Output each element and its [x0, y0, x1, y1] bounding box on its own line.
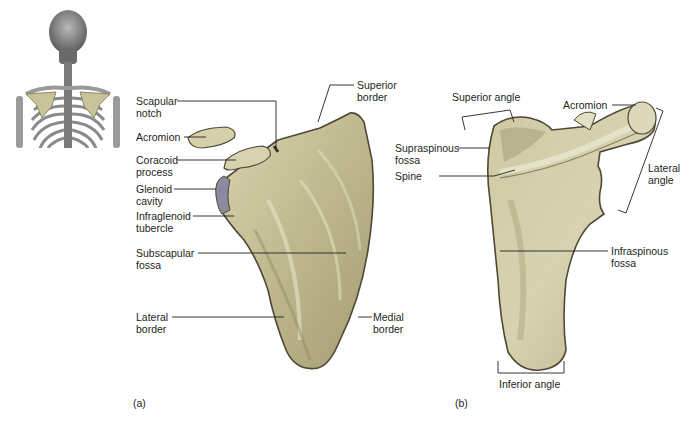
label-subscapular-fossa: Subscapular fossa	[136, 247, 194, 271]
label-lateral-angle: Lateral angle	[648, 162, 680, 186]
label-infraglenoid-tubercle: Infraglenoid tubercle	[136, 210, 191, 234]
label-line: fossa	[395, 154, 459, 166]
label-line: fossa	[136, 259, 194, 271]
label-line: Glenoid	[136, 183, 172, 195]
caption-b: (b)	[455, 397, 468, 409]
label-line: fossa	[611, 257, 668, 269]
bone-illustrations	[0, 0, 691, 421]
label-line: process	[136, 166, 178, 178]
label-scapular-notch: Scapular notch	[136, 95, 177, 119]
label-superior-angle: Superior angle	[452, 91, 520, 103]
label-supraspinous-fossa: Supraspinous fossa	[395, 142, 459, 166]
label-line: Subscapular	[136, 247, 194, 259]
label-line: Infraspinous	[611, 245, 668, 257]
label-line: tubercle	[136, 222, 191, 234]
label-line: Inferior angle	[499, 378, 560, 390]
scapula-figure: Scapular notch Acromion Coracoid process…	[0, 0, 691, 421]
label-acromion-b: Acromion	[563, 99, 607, 111]
label-line: Supraspinous	[395, 142, 459, 154]
label-infraspinous-fossa: Infraspinous fossa	[611, 245, 668, 269]
label-superior-border: Superior border	[357, 79, 397, 103]
label-line: border	[357, 91, 397, 103]
label-lateral-border: Lateral border	[136, 311, 168, 335]
label-line: Lateral	[648, 162, 680, 174]
label-line: angle	[648, 174, 680, 186]
label-line: Infraglenoid	[136, 210, 191, 222]
label-line: Spine	[395, 170, 422, 182]
label-line: border	[136, 323, 168, 335]
label-inferior-angle: Inferior angle	[499, 378, 560, 390]
label-line: Acromion	[563, 99, 607, 111]
label-medial-border: Medial border	[373, 311, 404, 335]
label-line: Medial	[373, 311, 404, 323]
scapula-anterior	[188, 113, 373, 369]
label-line: Coracoid	[136, 154, 178, 166]
label-coracoid-process: Coracoid process	[136, 154, 178, 178]
label-line: cavity	[136, 195, 172, 207]
label-line: border	[373, 323, 404, 335]
caption-a: (a)	[133, 397, 146, 409]
scapula-posterior	[488, 102, 656, 370]
label-line: Lateral	[136, 311, 168, 323]
label-line: Scapular	[136, 95, 177, 107]
label-line: Superior	[357, 79, 397, 91]
label-acromion-a: Acromion	[136, 131, 180, 143]
label-glenoid-cavity: Glenoid cavity	[136, 183, 172, 207]
label-line: notch	[136, 107, 177, 119]
label-line: Acromion	[136, 131, 180, 143]
label-spine: Spine	[395, 170, 422, 182]
label-line: Superior angle	[452, 91, 520, 103]
